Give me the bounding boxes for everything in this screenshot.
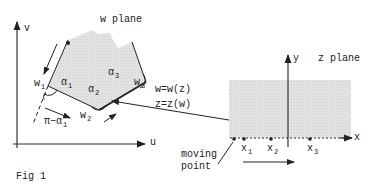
- mapping-inverse-label: z=z(w): [155, 100, 191, 110]
- axis-x-label: x: [354, 133, 360, 143]
- point-x3-label: x3: [307, 144, 318, 154]
- w-start-dot: [66, 41, 70, 45]
- angle-alpha1-label: α1: [61, 78, 72, 88]
- point-x1-label: x1: [241, 144, 252, 154]
- exterior-angle-label: π−α1: [44, 117, 67, 127]
- axis-v-label: v: [24, 24, 30, 34]
- angle-alpha3-label: α3: [108, 68, 119, 78]
- moving-point-label-line2: point: [181, 162, 211, 172]
- z-plane-title: z plane: [318, 54, 360, 64]
- mapping-forward-label: w=w(z): [155, 85, 191, 95]
- point-x2-label: x2: [267, 144, 278, 154]
- axis-u-label: u: [150, 138, 156, 148]
- w-plane-title: w plane: [100, 15, 142, 25]
- vertex-w2-label: w2: [80, 111, 91, 121]
- axis-y-label: y: [293, 54, 299, 64]
- angle-alpha2-label: α2: [88, 85, 99, 95]
- vertex-w3-label: w3: [134, 78, 145, 88]
- moving-point-pointer: [218, 142, 233, 164]
- w-polygon-region: [48, 30, 146, 110]
- w-arrow-w2-w3: [104, 114, 116, 122]
- z-half-plane-region: [229, 80, 351, 138]
- figure-caption: Fig 1: [16, 172, 46, 182]
- vertex-w1-label: w1: [34, 79, 45, 89]
- moving-point-label-line1: moving: [181, 150, 217, 160]
